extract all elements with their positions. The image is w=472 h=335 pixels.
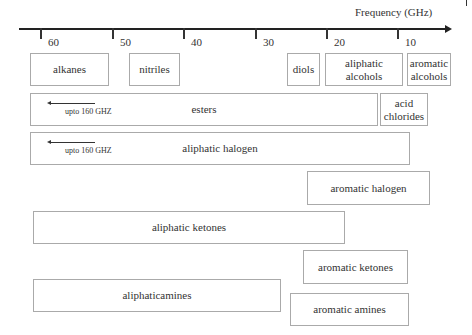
- axis-tick: [183, 28, 185, 39]
- range-box-diols: diols: [287, 53, 320, 86]
- axis-tick-label: 20: [334, 36, 345, 48]
- axis-tick: [40, 28, 42, 39]
- range-label: nitriles: [139, 63, 170, 76]
- range-label: aromatic alcohols: [410, 57, 448, 83]
- axis-line: [19, 28, 447, 30]
- left-arrow-icon: [49, 142, 95, 143]
- range-box-aliphatic-alcohols: aliphatic alcohols: [325, 53, 403, 86]
- range-label: diols: [293, 63, 314, 76]
- axis-tick-label: 60: [48, 36, 59, 48]
- range-box-aromatic-ketones: aromatic ketones: [303, 250, 408, 284]
- axis-tick: [326, 28, 328, 39]
- range-box-alkanes: alkanes: [30, 53, 109, 86]
- axis-tick-label: 30: [263, 36, 274, 48]
- range-extension-note: upto 160 GHZ: [65, 107, 112, 116]
- axis-arrowhead-icon: [445, 25, 452, 33]
- axis-title: Frequency (GHz): [355, 6, 432, 18]
- axis-tick-label: 10: [405, 36, 416, 48]
- left-arrow-icon: [49, 103, 95, 104]
- range-box-aromatic-alcohols: aromatic alcohols: [407, 53, 451, 86]
- range-label: aromatic ketones: [318, 261, 393, 274]
- axis-tick-label: 40: [191, 36, 202, 48]
- corner-mark: [466, 0, 467, 6]
- range-label: acid chlorides: [384, 97, 424, 123]
- range-label: aromatic halogen: [330, 182, 406, 195]
- axis-tick-label: 50: [120, 36, 131, 48]
- range-label: aliphatic halogen: [182, 142, 257, 155]
- range-label: aromatic amines: [313, 303, 385, 316]
- range-box-acid-chlorides: acid chlorides: [380, 93, 428, 126]
- range-box-nitriles: nitriles: [129, 53, 180, 86]
- range-label: alkanes: [53, 63, 86, 76]
- axis-tick: [397, 28, 399, 39]
- range-label: aliphatic alcohols: [345, 57, 383, 83]
- range-box-aliphaticamines: aliphaticamines: [33, 279, 281, 312]
- range-label: aliphaticamines: [122, 289, 191, 302]
- range-label: aliphatic ketones: [152, 221, 226, 234]
- range-box-aliphatic-ketones: aliphatic ketones: [33, 211, 345, 244]
- range-extension-note: upto 160 GHZ: [65, 146, 112, 155]
- axis-tick: [255, 28, 257, 39]
- range-box-aromatic-amines: aromatic amines: [290, 293, 409, 326]
- range-box-aromatic-halogen: aromatic halogen: [307, 171, 430, 205]
- axis-tick: [112, 28, 114, 39]
- range-label: esters: [191, 103, 216, 116]
